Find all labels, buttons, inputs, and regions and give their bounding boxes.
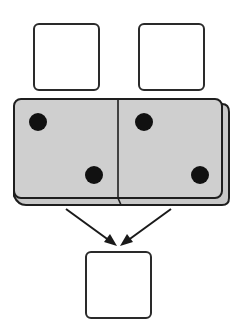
pip bbox=[85, 166, 103, 184]
bottom-answer-box[interactable] bbox=[86, 252, 151, 318]
top-right-answer-box[interactable] bbox=[139, 24, 204, 90]
arrow-right-icon bbox=[120, 209, 171, 246]
pip bbox=[29, 113, 47, 131]
top-left-answer-box[interactable] bbox=[34, 24, 99, 90]
domino-diagram bbox=[0, 0, 243, 331]
arrow-left-icon bbox=[66, 209, 117, 246]
pip bbox=[135, 113, 153, 131]
pip bbox=[191, 166, 209, 184]
